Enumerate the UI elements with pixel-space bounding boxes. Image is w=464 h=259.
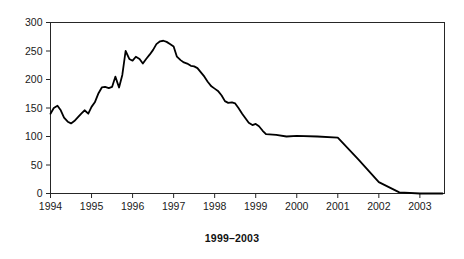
x-tick-label: 1995: [80, 200, 104, 212]
x-tick-label: 1998: [203, 200, 227, 212]
chart-figure: 1994199519961997199819992000200120022003…: [0, 0, 464, 259]
figure-caption: 1999–2003: [0, 232, 464, 244]
line-chart: 1994199519961997199819992000200120022003…: [0, 0, 464, 259]
y-tick-label: 50: [31, 159, 43, 171]
x-tick-label: 1994: [39, 200, 63, 212]
y-tick-label: 300: [25, 16, 43, 28]
y-tick-label: 100: [25, 130, 43, 142]
x-tick-label: 2000: [285, 200, 309, 212]
x-tick-label: 1999: [244, 200, 268, 212]
x-tick-label: 1996: [121, 200, 145, 212]
x-tick-label: 2002: [367, 200, 391, 212]
axes: [51, 23, 445, 194]
y-tick-label: 0: [37, 187, 43, 199]
y-tick-label: 250: [25, 45, 43, 57]
x-tick-label: 2001: [326, 200, 350, 212]
axis-tick-labels: 1994199519961997199819992000200120022003…: [25, 16, 432, 211]
y-tick-label: 150: [25, 102, 43, 114]
x-tick-label: 1997: [162, 200, 186, 212]
series-line: [51, 41, 443, 194]
axis-ticks: [46, 23, 420, 199]
data-series: [51, 41, 443, 194]
y-tick-label: 200: [25, 73, 43, 85]
x-tick-label: 2003: [408, 200, 432, 212]
